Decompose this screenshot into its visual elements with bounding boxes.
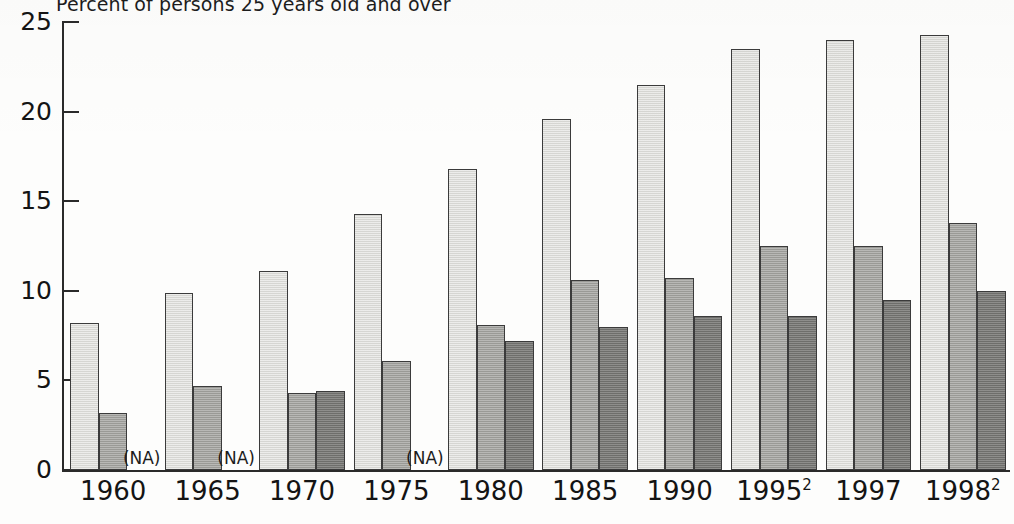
x-axis-line — [62, 470, 1010, 472]
bar-1995-series-2[interactable] — [760, 246, 789, 470]
bar-1990-series-2[interactable] — [665, 278, 694, 470]
bar-chart-figure: Percent of persons 25 years old and over… — [0, 0, 1014, 524]
bar-group-1985 — [542, 22, 628, 470]
bar-group-1970 — [259, 22, 345, 470]
bar-1965-series-1[interactable] — [165, 293, 194, 470]
bar-1975-series-1[interactable] — [354, 214, 383, 470]
footnote-marker-1998: 2 — [991, 476, 1001, 494]
y-tick-label-5: 5 — [0, 367, 52, 392]
bar-1995-series-1[interactable] — [731, 49, 760, 470]
bar-1970-series-1[interactable] — [259, 271, 288, 470]
bar-group-1980 — [448, 22, 534, 470]
bar-1997-series-1[interactable] — [826, 40, 855, 470]
bar-1990-series-1[interactable] — [637, 85, 666, 470]
bar-1997-series-3[interactable] — [883, 300, 912, 470]
x-axis-label-1998: 19982 — [894, 478, 1014, 504]
bar-1990-series-3[interactable] — [694, 316, 723, 470]
bar-1985-series-3[interactable] — [599, 327, 628, 470]
na-marker-1975-series-3: (NA) — [405, 448, 446, 468]
bar-group-1997 — [826, 22, 912, 470]
y-tick-label-20: 20 — [0, 99, 52, 124]
y-tick-label-10: 10 — [0, 278, 52, 303]
bar-1998-series-3[interactable] — [977, 291, 1006, 470]
bar-1985-series-2[interactable] — [571, 280, 600, 470]
y-tick-label-25: 25 — [0, 9, 52, 34]
bar-1985-series-1[interactable] — [542, 119, 571, 470]
bar-1997-series-2[interactable] — [854, 246, 883, 470]
bar-1960-series-1[interactable] — [70, 323, 99, 470]
bar-group-1998 — [920, 22, 1006, 470]
bar-1980-series-1[interactable] — [448, 169, 477, 470]
chart-title: Percent of persons 25 years old and over — [56, 0, 451, 15]
y-tick-label-15: 15 — [0, 188, 52, 213]
y-axis-line — [62, 22, 64, 472]
bar-1980-series-2[interactable] — [477, 325, 506, 470]
bar-group-1960: (NA) — [70, 22, 156, 470]
na-marker-1960-series-3: (NA) — [121, 448, 162, 468]
na-marker-1965-series-3: (NA) — [216, 448, 257, 468]
bar-group-1975: (NA) — [354, 22, 440, 470]
bar-1998-series-1[interactable] — [920, 35, 949, 470]
bar-1995-series-3[interactable] — [788, 316, 817, 470]
bar-1980-series-3[interactable] — [505, 341, 534, 470]
bar-1998-series-2[interactable] — [949, 223, 978, 470]
bar-group-1965: (NA) — [165, 22, 251, 470]
bar-group-1995 — [731, 22, 817, 470]
bar-1970-series-2[interactable] — [288, 393, 317, 470]
bar-1970-series-3[interactable] — [316, 391, 345, 470]
bar-group-1990 — [637, 22, 723, 470]
